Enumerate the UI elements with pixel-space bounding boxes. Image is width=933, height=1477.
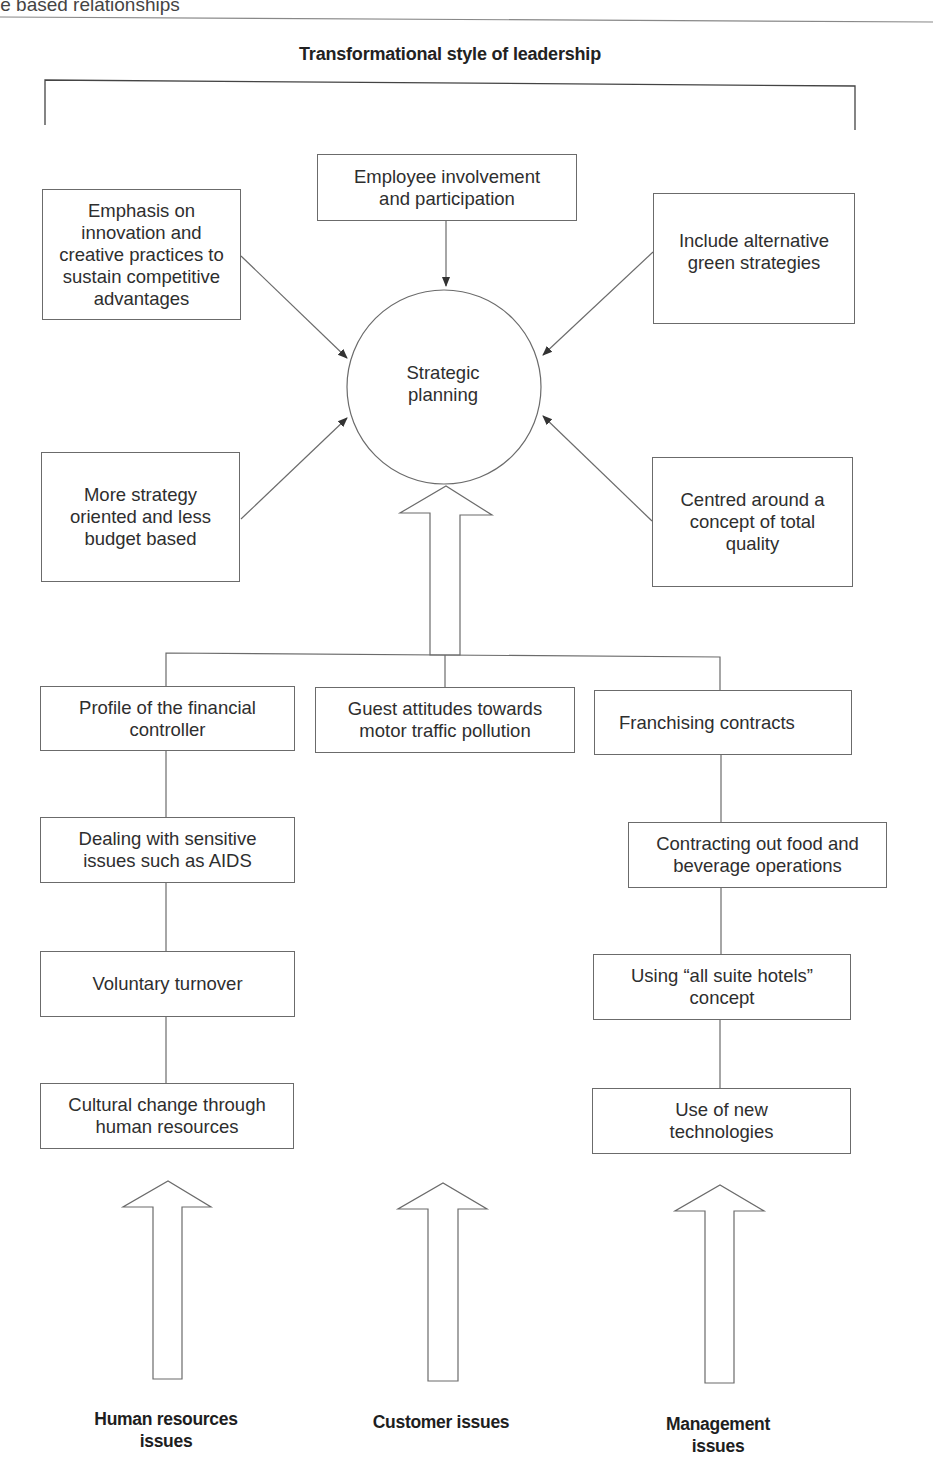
influence-label: More strategy oriented and less budget b… <box>70 484 211 550</box>
influence-label: Emphasis on innovation and creative prac… <box>59 200 224 310</box>
management-item-label: Franchising contracts <box>619 712 795 734</box>
customer-item-label: Guest attitudes towards motor traffic po… <box>348 698 542 742</box>
influence-box-quality: Centred around a concept of total qualit… <box>652 457 853 587</box>
arrow-strategy-to-center <box>241 418 347 519</box>
management-item-label: Using “all suite hotels” concept <box>631 965 813 1009</box>
leadership-bracket <box>45 80 855 130</box>
hr-item-label: Cultural change through human resources <box>68 1094 265 1138</box>
hr-item-label: Dealing with sensitive issues such as AI… <box>79 828 257 872</box>
category-label-hr: Human resources issues <box>66 1408 266 1452</box>
influence-label: Employee involvement and participation <box>354 166 540 210</box>
influence-box-strategy: More strategy oriented and less budget b… <box>41 452 240 582</box>
management-up-arrow <box>675 1185 764 1383</box>
customer-item-box: Guest attitudes towards motor traffic po… <box>315 687 575 753</box>
hr-up-arrow <box>123 1181 211 1379</box>
management-item-label: Use of new technologies <box>670 1099 774 1143</box>
hr-item-box: Voluntary turnover <box>40 951 295 1017</box>
management-item-box: Using “all suite hotels” concept <box>593 954 851 1020</box>
header-rule <box>0 17 933 22</box>
influence-label: Centred around a concept of total qualit… <box>681 489 825 555</box>
customer-up-arrow <box>398 1183 487 1381</box>
hr-item-box: Profile of the financial controller <box>40 686 295 751</box>
category-label-management: Management issues <box>618 1413 818 1457</box>
diagram-title: Transformational style of leadership <box>0 44 900 65</box>
hr-item-label: Voluntary turnover <box>92 973 242 995</box>
management-item-box: Use of new technologies <box>592 1088 851 1154</box>
arrow-innovation-to-center <box>241 256 347 358</box>
management-item-box: Franchising contracts <box>594 690 852 755</box>
influence-box-innovation: Emphasis on innovation and creative prac… <box>42 189 241 320</box>
influence-box-green: Include alternative green strategies <box>653 193 855 324</box>
arrow-green-to-center <box>543 252 653 355</box>
influence-label: Include alternative green strategies <box>679 230 829 274</box>
strategic-planning-label: Strategic planning <box>348 362 538 406</box>
influence-box-employee: Employee involvement and participation <box>317 154 577 221</box>
arrow-quality-to-center <box>543 416 652 521</box>
management-item-box: Contracting out food and beverage operat… <box>628 822 887 888</box>
aggregate-up-arrow <box>400 486 492 655</box>
hr-item-box: Dealing with sensitive issues such as AI… <box>40 817 295 883</box>
management-item-label: Contracting out food and beverage operat… <box>656 833 859 877</box>
hr-item-box: Cultural change through human resources <box>40 1083 294 1149</box>
category-label-customer: Customer issues <box>341 1411 541 1433</box>
hr-item-label: Profile of the financial controller <box>79 697 256 741</box>
